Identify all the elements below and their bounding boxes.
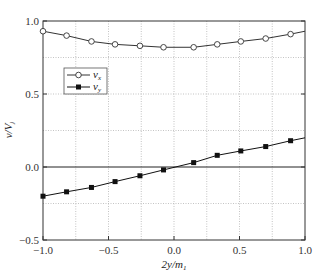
data-point	[215, 153, 220, 158]
data-point	[288, 138, 293, 143]
y-tick-label: 0.0	[25, 161, 39, 173]
data-point	[191, 160, 196, 165]
x-tick-label: 1.0	[298, 244, 312, 256]
data-point	[238, 39, 244, 45]
data-point	[112, 42, 118, 48]
open-circle-marker-icon	[76, 72, 82, 78]
axis-ticks: −1.0−0.50.00.51.0−0.50.00.51.0	[19, 15, 312, 256]
data-point	[161, 167, 166, 172]
data-point	[191, 44, 197, 50]
series-vy	[41, 138, 306, 199]
chart: −1.0−0.50.00.51.0−0.50.00.51.0 vx vy 2y/…	[0, 0, 325, 278]
data-series	[40, 28, 305, 198]
data-point	[263, 36, 269, 42]
data-point	[64, 189, 69, 194]
data-point	[137, 43, 143, 49]
series-vx	[40, 28, 305, 50]
data-point	[214, 42, 220, 48]
x-tick-label: 0.5	[233, 244, 247, 256]
legend: vx vy	[64, 68, 107, 94]
y-tick-label: 1.0	[25, 15, 39, 27]
data-point	[238, 148, 243, 153]
data-point	[40, 28, 46, 34]
data-point	[263, 144, 268, 149]
data-point	[113, 179, 118, 184]
filled-square-marker-icon	[76, 85, 81, 90]
x-tick-label: 0.0	[167, 244, 181, 256]
data-point	[288, 31, 294, 37]
data-point	[89, 39, 95, 45]
x-tick-label: −0.5	[99, 244, 119, 256]
grid-lines	[43, 21, 305, 240]
data-point	[161, 44, 167, 50]
y-tick-label: −0.5	[19, 234, 39, 246]
y-axis-label: v/Vj	[2, 122, 16, 139]
data-point	[137, 173, 142, 178]
data-point	[89, 185, 94, 190]
x-axis-label: 2y/m1	[162, 258, 187, 272]
data-point	[64, 33, 70, 39]
y-tick-label: 0.5	[25, 88, 39, 100]
data-point	[41, 194, 46, 199]
